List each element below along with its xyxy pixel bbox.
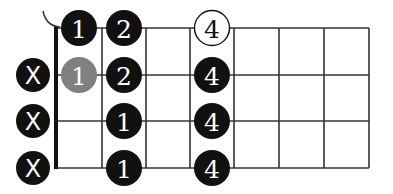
finger-dot-label: 2 xyxy=(116,62,132,91)
finger-dot-label: 1 xyxy=(71,15,87,44)
muted-marker-label: X xyxy=(25,155,41,183)
muted-marker: X xyxy=(16,104,50,138)
string-lines xyxy=(56,28,369,168)
muted-marker: X xyxy=(16,151,50,185)
muted-marker-label: X xyxy=(25,62,41,90)
finger-dot: 1 xyxy=(61,10,97,46)
muted-markers: X X X xyxy=(16,58,50,185)
finger-dot-gray: 1 xyxy=(61,57,97,93)
finger-dot: 2 xyxy=(106,57,142,93)
finger-dot: 1 xyxy=(106,103,142,139)
finger-dot: 2 xyxy=(106,10,142,46)
finger-dot: 4 xyxy=(194,150,230,186)
fret-lines xyxy=(102,28,369,168)
muted-marker: X xyxy=(16,58,50,92)
finger-dot-label: 4 xyxy=(204,62,220,91)
finger-dot: 4 xyxy=(194,57,230,93)
finger-dot-label: 4 xyxy=(204,155,220,184)
finger-dot: 4 xyxy=(194,103,230,139)
finger-dot: 1 xyxy=(106,150,142,186)
finger-dot-label: 4 xyxy=(204,15,220,44)
finger-dot-outline: 4 xyxy=(195,11,230,46)
finger-dot-label: 1 xyxy=(71,62,87,91)
barre-arc xyxy=(43,11,60,27)
finger-dot-label: 1 xyxy=(116,155,132,184)
finger-dot-label: 1 xyxy=(116,108,132,137)
finger-dot-label: 2 xyxy=(116,15,132,44)
finger-dot-label: 4 xyxy=(204,108,220,137)
chord-diagram: X X X 1 2 4 1 2 xyxy=(0,0,393,194)
muted-marker-label: X xyxy=(25,108,41,136)
